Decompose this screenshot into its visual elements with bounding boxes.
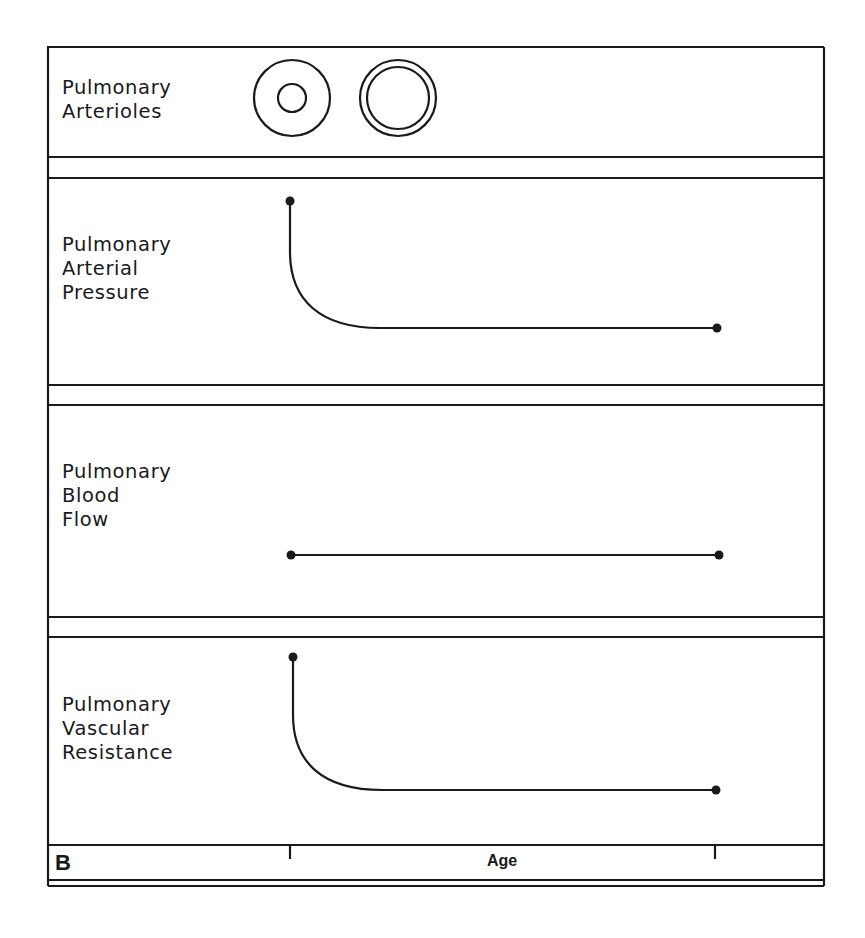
pressure-start-dot	[286, 197, 295, 206]
label-line: Pulmonary	[62, 233, 171, 257]
label-line: Pressure	[62, 281, 171, 305]
label-line: Vascular	[62, 717, 173, 741]
label-line: Arterioles	[62, 100, 171, 124]
label-line: Flow	[62, 508, 171, 532]
resistance-start-dot	[289, 653, 298, 662]
pressure-end-dot	[713, 324, 722, 333]
pressure-curve	[290, 201, 717, 328]
label-vascular-resistance: Pulmonary Vascular Resistance	[62, 693, 173, 765]
thin-walled-arteriole-icon	[360, 60, 436, 136]
label-arterioles: Pulmonary Arterioles	[62, 76, 171, 124]
x-axis-label: Age	[487, 851, 517, 871]
label-line: Blood	[62, 484, 171, 508]
thick-walled-arteriole-icon	[254, 60, 330, 136]
blood-flow-start-dot	[287, 551, 296, 560]
label-line: Pulmonary	[62, 460, 171, 484]
panel-letter: B	[55, 850, 71, 876]
label-line: Pulmonary	[62, 76, 171, 100]
blood-flow-end-dot	[715, 551, 724, 560]
label-blood-flow: Pulmonary Blood Flow	[62, 460, 171, 532]
label-line: Pulmonary	[62, 693, 173, 717]
resistance-curve	[293, 657, 716, 790]
resistance-end-dot	[712, 786, 721, 795]
label-line: Resistance	[62, 741, 173, 765]
label-line: Arterial	[62, 257, 171, 281]
label-arterial-pressure: Pulmonary Arterial Pressure	[62, 233, 171, 305]
